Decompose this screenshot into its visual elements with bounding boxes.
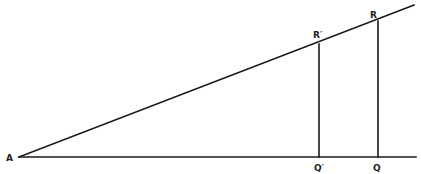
- label-q-prime: Q′: [314, 163, 325, 173]
- label-r: R: [370, 10, 377, 20]
- label-q: Q: [373, 163, 381, 173]
- label-a: A: [6, 153, 13, 163]
- similar-triangles-diagram: A R′ R Q′ Q: [0, 0, 421, 174]
- hypotenuse-line: [19, 5, 414, 157]
- label-r-prime: R′: [313, 30, 323, 40]
